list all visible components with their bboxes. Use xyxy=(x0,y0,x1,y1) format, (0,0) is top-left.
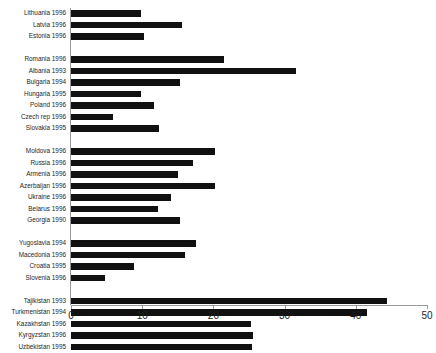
bar-row xyxy=(71,77,427,89)
bar xyxy=(71,102,154,108)
bar-row xyxy=(71,20,427,32)
category-label: Romania 1996 xyxy=(24,55,66,62)
category-label: Macedonia 1996 xyxy=(19,251,66,258)
x-tick-10 xyxy=(142,305,143,309)
bar-row xyxy=(71,296,427,308)
bar-row xyxy=(71,112,427,124)
plot-area xyxy=(71,8,427,305)
x-tick-label-10: 10 xyxy=(137,310,148,321)
bar xyxy=(71,91,141,97)
x-tick-label-40: 40 xyxy=(350,310,361,321)
category-label: Czech rep 1996 xyxy=(21,113,66,120)
category-label: Uzbekistan 1995 xyxy=(18,343,66,350)
category-label: Latvia 1996 xyxy=(33,21,66,28)
category-label: Bulgaria 1994 xyxy=(27,78,66,85)
bar xyxy=(71,10,141,16)
bar-row xyxy=(71,192,427,204)
bar xyxy=(71,263,134,269)
bar xyxy=(71,183,215,189)
bar-row xyxy=(71,181,427,193)
category-label: Kyrgyzstan 1996 xyxy=(18,331,66,338)
bar-row xyxy=(71,238,427,250)
bar-row xyxy=(71,169,427,181)
bar xyxy=(71,298,387,304)
x-tick-30 xyxy=(285,305,286,309)
bar xyxy=(71,206,158,212)
bar xyxy=(71,194,171,200)
category-label: Tajikistan 1993 xyxy=(24,297,66,304)
category-label: Croatia 1995 xyxy=(29,262,66,269)
bar xyxy=(71,22,182,28)
category-label: Slovakia 1995 xyxy=(26,124,66,131)
bar xyxy=(71,344,252,350)
x-tick-20 xyxy=(213,305,214,309)
x-tick-0 xyxy=(71,305,72,309)
category-label: Poland 1996 xyxy=(30,101,66,108)
category-label: Estonia 1996 xyxy=(29,32,66,39)
x-tick-label-50: 50 xyxy=(421,310,432,321)
bar-row xyxy=(71,307,427,319)
bar xyxy=(71,240,196,246)
bar xyxy=(71,160,193,166)
x-tick-40 xyxy=(356,305,357,309)
bar-row xyxy=(71,273,427,285)
bar-row xyxy=(71,123,427,135)
bar-row xyxy=(71,31,427,43)
bar xyxy=(71,125,159,131)
x-tick-label-20: 20 xyxy=(208,310,219,321)
bar-row xyxy=(71,330,427,342)
bar-row xyxy=(71,54,427,66)
bar xyxy=(71,171,178,177)
bar xyxy=(71,56,224,62)
category-label: Kazakhstan 1996 xyxy=(17,320,66,327)
bar-row xyxy=(71,158,427,170)
x-tick-50 xyxy=(427,305,428,309)
bar-row xyxy=(71,215,427,227)
bar xyxy=(71,321,251,327)
bar xyxy=(71,148,215,154)
bar xyxy=(71,33,144,39)
bar xyxy=(71,332,253,338)
bar-row xyxy=(71,250,427,262)
category-label: Belarus 1996 xyxy=(28,205,66,212)
bar-row xyxy=(71,8,427,20)
category-label: Lithuania 1996 xyxy=(24,9,66,16)
bar xyxy=(71,252,185,258)
bar-row xyxy=(71,261,427,273)
bar xyxy=(71,68,296,74)
category-label: Armenia 1996 xyxy=(26,170,66,177)
category-label: Albania 1993 xyxy=(29,67,66,74)
category-label: Ukraine 1996 xyxy=(28,193,66,200)
category-label: Hungaria 1995 xyxy=(24,90,66,97)
bar-row xyxy=(71,342,427,353)
x-tick-label-0: 0 xyxy=(68,310,74,321)
bar-row xyxy=(71,89,427,101)
bar-row xyxy=(71,204,427,216)
category-label: Georgia 1990 xyxy=(27,216,66,223)
category-label: Slovenia 1996 xyxy=(25,274,66,281)
category-label: Azerbaijan 1996 xyxy=(20,182,66,189)
bar-row xyxy=(71,66,427,78)
category-label: Moldova 1996 xyxy=(26,147,66,154)
category-label: Yugoslavia 1994 xyxy=(19,239,66,246)
bar-row xyxy=(71,100,427,112)
bar xyxy=(71,217,180,223)
category-label: Russia 1996 xyxy=(30,159,66,166)
bar xyxy=(71,79,180,85)
bar-row xyxy=(71,146,427,158)
bar xyxy=(71,114,113,120)
x-tick-label-30: 30 xyxy=(279,310,290,321)
category-axis-labels: Lithuania 1996Latvia 1996Estonia 1996Rom… xyxy=(0,8,66,305)
bar-row xyxy=(71,319,427,331)
bar xyxy=(71,309,367,315)
bar xyxy=(71,275,105,281)
category-label: Turkmenistan 1994 xyxy=(12,308,66,315)
